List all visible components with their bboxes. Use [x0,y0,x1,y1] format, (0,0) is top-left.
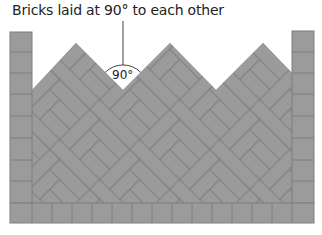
edging-left [10,32,32,203]
angle-label: 90° [112,68,133,82]
herringbone-field [0,0,322,235]
edging-right [292,31,314,203]
edging-bottom [10,203,314,223]
herringbone-diagram [0,0,322,235]
